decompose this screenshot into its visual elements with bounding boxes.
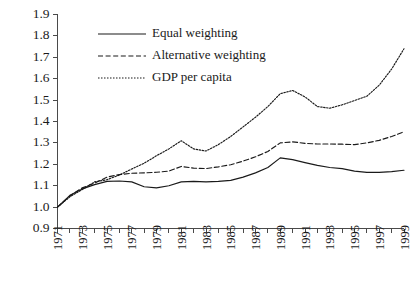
- x-tick-label: 1971: [51, 225, 65, 250]
- x-tick-label: 1993: [323, 225, 337, 250]
- y-tick-label: 1.9: [33, 6, 50, 21]
- line-chart-figure: 0.91.01.11.21.31.41.51.61.71.81.9 197119…: [0, 0, 414, 286]
- chart-canvas: 0.91.01.11.21.31.41.51.61.71.81.9 197119…: [0, 0, 414, 286]
- y-tick-label: 1.7: [33, 49, 50, 64]
- x-axis: 1971197319751977197919811983198519871989…: [51, 225, 412, 250]
- x-tick-label: 1983: [200, 225, 214, 250]
- y-tick-label: 1.0: [33, 199, 50, 214]
- x-tick-label: 1989: [274, 225, 288, 250]
- legend-label-1: Alternative weighting: [152, 47, 266, 62]
- x-tick-label: 1991: [299, 225, 313, 250]
- legend-label-2: GDP per capita: [152, 69, 232, 84]
- x-tick-label: 1977: [125, 225, 139, 250]
- y-tick-label: 1.6: [33, 70, 50, 85]
- x-tick-label: 1985: [224, 225, 238, 250]
- x-tick-label: 1987: [249, 225, 263, 250]
- x-tick-label: 1973: [76, 225, 90, 250]
- y-axis: 0.91.01.11.21.31.41.51.61.71.81.9: [33, 6, 58, 235]
- y-tick-label: 1.3: [33, 134, 50, 149]
- legend-label-0: Equal weighting: [152, 25, 238, 40]
- x-tick-label: 1975: [101, 225, 115, 250]
- y-tick-label: 1.2: [33, 156, 50, 171]
- x-tick-label: 1999: [398, 225, 412, 250]
- y-tick-label: 1.1: [33, 177, 50, 192]
- x-tick-label: 1981: [175, 225, 189, 250]
- y-tick-label: 1.4: [33, 113, 50, 128]
- chart-legend: Equal weightingAlternative weightingGDP …: [98, 25, 266, 84]
- x-tick-label: 1995: [348, 225, 362, 250]
- y-tick-label: 1.8: [33, 27, 50, 42]
- x-tick-label: 1979: [150, 225, 164, 250]
- y-tick-label: 1.5: [33, 92, 50, 107]
- series-line-1: [58, 132, 405, 207]
- x-tick-label: 1997: [373, 225, 387, 250]
- y-tick-label: 0.9: [33, 220, 50, 235]
